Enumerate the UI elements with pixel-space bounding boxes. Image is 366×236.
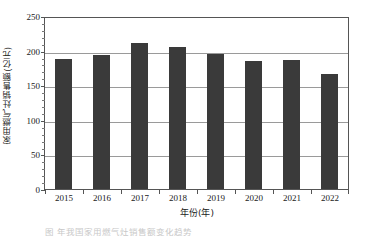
y-axis-title: 家用燃气灶销售额(亿元) [0, 0, 16, 190]
bar-chart-figure: 家用燃气灶销售额(亿元) 250 200 150 100 50 0 [0, 0, 366, 236]
x-tick-label-2018: 2018 [159, 194, 197, 203]
y-tick-label-250: 250 [27, 13, 41, 22]
x-tick-label-2019: 2019 [197, 194, 235, 203]
y-axis-title-text: 家用燃气灶销售额(亿元) [4, 47, 13, 144]
y-tick-label-0: 0 [36, 186, 41, 195]
plot-area [45, 17, 349, 190]
bar-2016[interactable] [93, 55, 110, 189]
x-tick-label-2022: 2022 [311, 194, 349, 203]
bar-2015[interactable] [55, 59, 72, 189]
y-tick-label-150: 150 [27, 82, 41, 91]
bar-slot-2020 [234, 18, 272, 189]
bar-2017[interactable] [131, 43, 148, 189]
bar-slot-2022 [310, 18, 348, 189]
x-tick-label-2016: 2016 [83, 194, 121, 203]
x-axis-title: 年份(年) [45, 209, 349, 218]
bar-2021[interactable] [283, 60, 300, 189]
y-axis-tick-labels: 250 200 150 100 50 0 [16, 0, 42, 236]
bar-2020[interactable] [245, 61, 262, 189]
bar-series [45, 18, 348, 189]
bar-slot-2017 [121, 18, 159, 189]
bar-slot-2016 [83, 18, 121, 189]
bar-2022[interactable] [321, 74, 338, 189]
x-tick-label-2017: 2017 [121, 194, 159, 203]
bar-slot-2015 [45, 18, 83, 189]
bar-slot-2021 [272, 18, 310, 189]
y-tick-label-100: 100 [27, 116, 41, 125]
x-tick-label-2015: 2015 [45, 194, 83, 203]
y-tick-label-50: 50 [31, 151, 40, 160]
x-axis-tick-labels: 2015 2016 2017 2018 2019 2020 2021 2022 [45, 194, 349, 203]
x-tick-label-2021: 2021 [273, 194, 311, 203]
x-tick-label-2020: 2020 [235, 194, 273, 203]
figure-caption: 图 年我国家用燃气灶销售额变化趋势 [45, 228, 355, 236]
bar-slot-2018 [159, 18, 197, 189]
bar-2019[interactable] [207, 54, 224, 189]
bar-2018[interactable] [169, 47, 186, 189]
bar-slot-2019 [197, 18, 235, 189]
y-tick-label-200: 200 [27, 47, 41, 56]
